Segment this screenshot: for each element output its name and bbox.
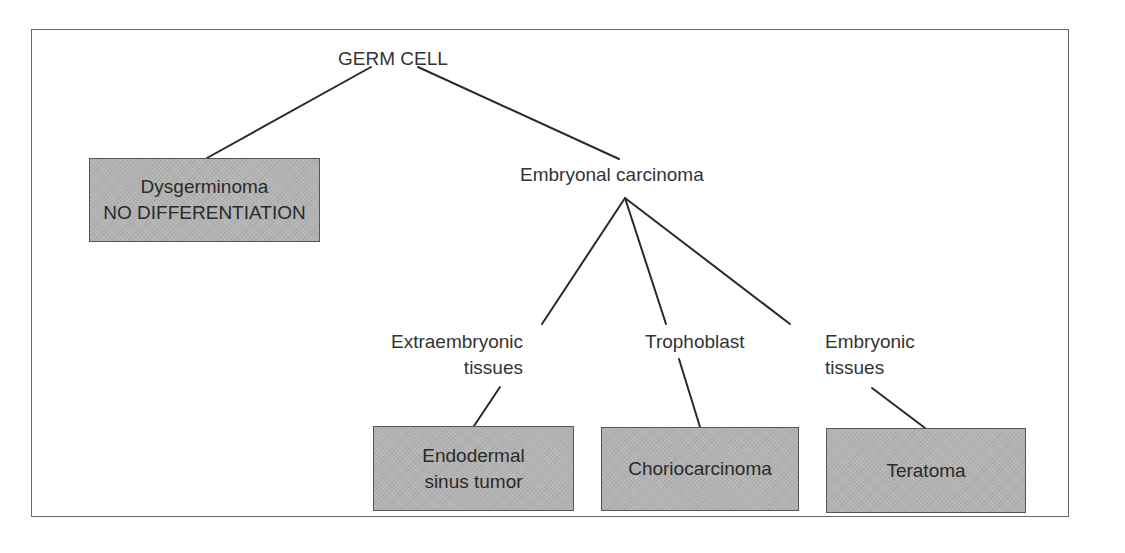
edge-trophoblast-choriocarcinoma [679,359,700,427]
node-choriocarcinoma: Choriocarcinoma [601,427,799,511]
edge-embryonal-trophoblast [625,198,666,324]
node-germ-cell: GERM CELL [338,46,448,72]
node-extraembryonic-tissues: Extraembryonic tissues [373,329,523,381]
node-embryonic-tissues: Embryonic tissues [825,329,915,381]
dysgerminoma-title: Dysgerminoma [141,174,269,200]
extraembryonic-line1: Extraembryonic [373,329,523,355]
embryonic-line2: tissues [825,355,915,381]
endodermal-line1: Endodermal [422,443,524,469]
node-dysgerminoma: Dysgerminoma NO DIFFERENTIATION [89,158,320,242]
extraembryonic-line2: tissues [373,355,523,381]
teratoma-label: Teratoma [886,458,965,484]
edge-germcell-embryonal [418,67,619,159]
node-embryonal-carcinoma: Embryonal carcinoma [520,162,704,188]
edge-embryonic-teratoma [872,388,925,428]
embryonic-line1: Embryonic [825,329,915,355]
endodermal-line2: sinus tumor [424,469,522,495]
choriocarcinoma-label: Choriocarcinoma [628,456,772,482]
node-trophoblast: Trophoblast [645,329,745,355]
edge-embryonal-extraembryonic [542,198,625,324]
node-teratoma: Teratoma [826,428,1026,513]
edge-germcell-dysgerminoma [207,67,371,158]
node-endodermal-sinus-tumor: Endodermal sinus tumor [373,426,574,511]
edge-extraembryonic-endodermal [474,387,500,426]
edge-embryonal-embryonic [625,198,790,324]
dysgerminoma-subtitle: NO DIFFERENTIATION [103,200,305,226]
